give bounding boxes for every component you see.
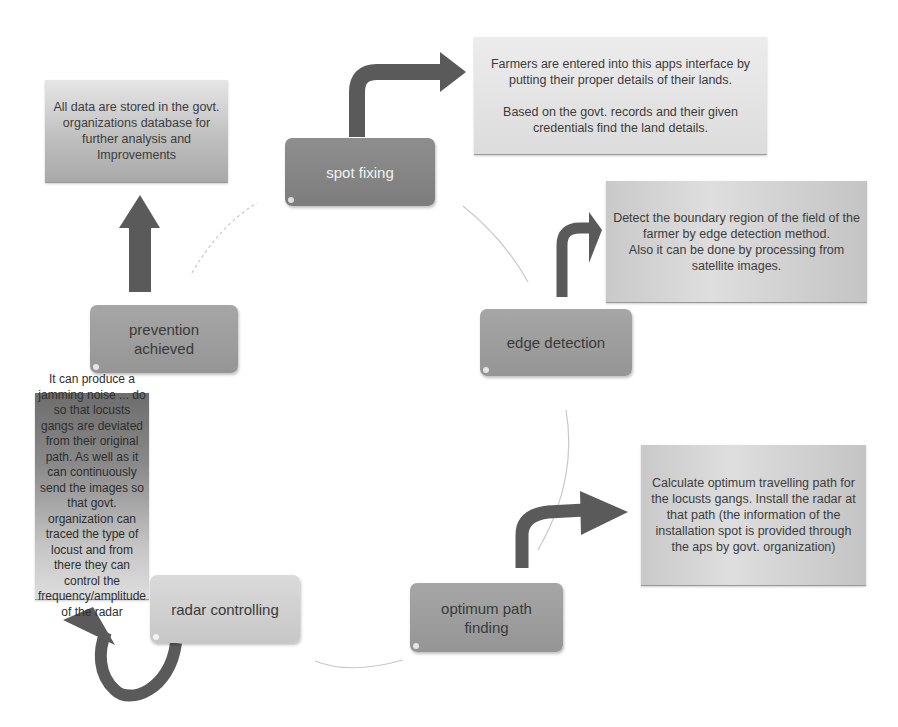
note-optimum-path: Calculate optimum travelling path for th… (641, 445, 866, 586)
cycle-arc-path-to-radar (315, 660, 403, 668)
node-radar-controlling-label: radar controlling (171, 600, 279, 619)
note-prevention: All data are stored in the govt. organiz… (45, 80, 228, 183)
arrow-edge-detection-to-note (562, 212, 602, 297)
node-edge-detection[interactable]: edge detection (480, 309, 632, 376)
note-spot-fixing-text-1: Farmers are entered into this apps inter… (480, 56, 761, 88)
note-prevention-text: All data are stored in the govt. organiz… (51, 99, 222, 163)
cycle-arc-edge-to-path (538, 410, 569, 550)
note-radar-controlling: It can produce a jamming noise ... do so… (35, 393, 149, 600)
note-edge-detection-text-2: Also it can be done by processing from s… (612, 242, 861, 274)
arrow-optimum-path-to-note (522, 491, 628, 568)
note-radar-controlling-text: It can produce a jamming noise ... do so… (38, 372, 146, 620)
node-spot-fixing[interactable]: spot fixing (285, 138, 435, 206)
note-edge-detection-text-1: Detect the boundary region of the field … (612, 210, 861, 242)
node-prevention-achieved[interactable]: prevention achieved (90, 305, 238, 373)
cycle-arc-spot-to-edge (463, 206, 528, 282)
cycle-arc-prevention-to-spot (192, 203, 257, 273)
note-spot-fixing-text-2: Based on the govt. records and their giv… (480, 104, 761, 136)
node-optimum-path-finding-label: optimum path finding (436, 599, 537, 637)
note-optimum-path-text: Calculate optimum travelling path for th… (647, 475, 860, 555)
note-spot-fixing: Farmers are entered into this apps inter… (474, 37, 767, 155)
node-spot-fixing-label: spot fixing (326, 163, 394, 182)
node-optimum-path-finding[interactable]: optimum path finding (410, 583, 563, 652)
node-prevention-achieved-label: prevention achieved (120, 320, 208, 358)
arrow-prevention-to-note (119, 195, 160, 292)
process-cycle-diagram: Farmers are entered into this apps inter… (0, 0, 898, 727)
note-edge-detection: Detect the boundary region of the field … (606, 181, 867, 303)
arrow-spot-fixing-to-note (357, 52, 466, 137)
node-edge-detection-label: edge detection (507, 333, 605, 352)
node-radar-controlling[interactable]: radar controlling (150, 575, 300, 643)
